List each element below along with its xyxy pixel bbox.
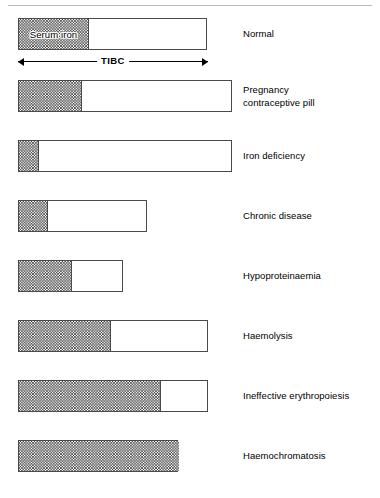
- iron-bar: [18, 80, 232, 112]
- serum-iron-caption: Serum iron: [19, 29, 88, 40]
- serum-iron-segment: [19, 321, 111, 351]
- iron-bar: [18, 320, 208, 352]
- condition-label: Normal: [243, 28, 274, 41]
- iron-bar: [18, 260, 123, 292]
- tibc-measure: TIBC: [18, 55, 208, 69]
- iron-bar: [18, 140, 232, 172]
- serum-iron-segment: [19, 201, 48, 231]
- iron-studies-diagram: TIBC Serum ironNormalPregnancy contracep…: [0, 0, 380, 498]
- serum-iron-segment: [19, 261, 72, 291]
- serum-iron-segment: Serum iron: [19, 19, 89, 49]
- tibc-arrow-left-icon: [18, 58, 24, 66]
- condition-label: Iron deficiency: [243, 150, 305, 163]
- iron-bar: Serum iron: [18, 18, 207, 50]
- serum-iron-segment: [19, 381, 161, 411]
- iron-bar: [18, 200, 147, 232]
- serum-iron-segment: [19, 441, 179, 471]
- condition-label: Ineffective erythropoiesis: [243, 390, 349, 403]
- condition-label: Haemochromatosis: [243, 450, 326, 463]
- condition-label: Pregnancy contraceptive pill: [243, 84, 315, 109]
- serum-iron-segment: [19, 141, 39, 171]
- iron-bar: [18, 380, 208, 412]
- serum-iron-segment: [19, 81, 82, 111]
- condition-label: Haemolysis: [243, 330, 293, 343]
- iron-bar: [18, 440, 178, 472]
- tibc-label: TIBC: [97, 54, 129, 68]
- tibc-arrow-right-icon: [202, 58, 208, 66]
- condition-label: Chronic disease: [243, 210, 312, 223]
- condition-label: Hypoproteinaemia: [243, 270, 321, 283]
